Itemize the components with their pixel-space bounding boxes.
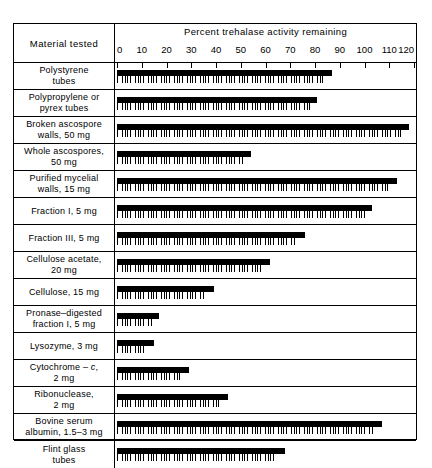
row-plot [115, 387, 416, 413]
x-tick-mark-100 [365, 63, 366, 68]
bar-solid [117, 286, 214, 292]
x-tick-mark-50 [241, 63, 242, 68]
table-row: Flint glasstubes [14, 441, 416, 468]
row-plot [115, 144, 416, 170]
row-plot [115, 117, 416, 143]
x-tick-mark-120 [414, 63, 415, 68]
row-label: Bovine serumalbumin, 1.5–3 mg [14, 414, 115, 440]
x-tick-mark-80 [315, 63, 316, 68]
table-row: Pronase–digestedfraction I, 5 mg [14, 306, 416, 333]
row-label: Cytochrome – c,2 mg [14, 360, 115, 386]
bar-solid [117, 259, 270, 265]
table-row: Fraction III, 5 mg [14, 225, 416, 252]
x-tick-label-10: 10 [136, 44, 147, 55]
bar-solid [117, 367, 189, 373]
row-label: Fraction III, 5 mg [14, 225, 115, 251]
bar-solid [117, 448, 285, 454]
axis-title: Percent trehalase activity remaining [115, 26, 416, 37]
bar-solid [117, 232, 305, 238]
row-plot [115, 63, 416, 89]
x-tick-mark-90 [340, 63, 341, 68]
bar-hatched [117, 346, 147, 353]
row-plot [115, 252, 416, 278]
bar-hatched [117, 454, 275, 461]
chart-table: Material tested Percent trehalase activi… [13, 23, 417, 440]
row-plot [115, 171, 416, 197]
bar-solid [117, 97, 317, 103]
table-row: Polystyrenetubes [14, 63, 416, 90]
row-label: Lysozyme, 3 mg [14, 333, 115, 359]
material-column-header: Material tested [14, 24, 115, 62]
table-row: Bovine serumalbumin, 1.5–3 mg [14, 414, 416, 441]
bar-solid [117, 151, 251, 157]
bar-solid [117, 178, 397, 184]
row-plot [115, 225, 416, 251]
row-plot [115, 360, 416, 386]
x-tick-label-20: 20 [161, 44, 172, 55]
x-tick-mark-60 [266, 63, 267, 68]
row-label: Whole ascospores,50 mg [14, 144, 115, 170]
bar-solid [117, 70, 332, 76]
bar-hatched [117, 184, 389, 191]
x-tick-label-110: 110 [382, 44, 397, 55]
row-plot [115, 279, 416, 305]
table-row: Ribonuclease,2 mg [14, 387, 416, 414]
bar-solid [117, 421, 382, 427]
row-label: Polypropylene orpyrex tubes [14, 90, 115, 116]
x-tick-mark-0 [117, 63, 118, 68]
x-tick-label-90: 90 [334, 44, 345, 55]
bar-hatched [117, 427, 374, 434]
table-row: Cytochrome – c,2 mg [14, 360, 416, 387]
bar-solid [117, 340, 154, 346]
row-label: Purified mycelialwalls, 15 mg [14, 171, 115, 197]
row-plot [115, 90, 416, 116]
bar-hatched [117, 76, 325, 83]
table-row: Lysozyme, 3 mg [14, 333, 416, 360]
table-row: Fraction I, 5 mg [14, 198, 416, 225]
row-label: Cellulose, 15 mg [14, 279, 115, 305]
x-tick-label-40: 40 [211, 44, 222, 55]
bar-hatched [117, 265, 261, 272]
x-tick-mark-30 [191, 63, 192, 68]
x-tick-mark-20 [167, 63, 168, 68]
x-tick-mark-40 [216, 63, 217, 68]
row-plot [115, 441, 416, 468]
table-row: Purified mycelialwalls, 15 mg [14, 171, 416, 198]
row-label: Fraction I, 5 mg [14, 198, 115, 224]
chart-rows: PolystyrenetubesPolypropylene orpyrex tu… [14, 63, 416, 468]
bar-hatched [117, 130, 402, 137]
table-row: Polypropylene orpyrex tubes [14, 90, 416, 117]
table-row: Broken ascosporewalls, 50 mg [14, 117, 416, 144]
x-tick-mark-70 [290, 63, 291, 68]
bar-solid [117, 394, 228, 400]
table-row: Whole ascospores,50 mg [14, 144, 416, 171]
row-label: Flint glasstubes [14, 441, 115, 468]
row-plot [115, 414, 416, 440]
bar-hatched [117, 319, 152, 326]
bar-solid [117, 313, 159, 319]
table-row: Cellulose, 15 mg [14, 279, 416, 306]
x-tick-label-50: 50 [235, 44, 246, 55]
bar-solid [117, 205, 372, 211]
row-label: Cellulose acetate,20 mg [14, 252, 115, 278]
x-axis-header: Percent trehalase activity remaining 010… [115, 24, 416, 62]
x-tick-label-0: 0 [117, 44, 122, 55]
x-tick-label-80: 80 [310, 44, 321, 55]
x-tick-mark-10 [142, 63, 143, 68]
bar-hatched [117, 157, 243, 164]
table-header-row: Material tested Percent trehalase activi… [14, 24, 416, 63]
bar-hatched [117, 238, 295, 245]
x-tick-mark-110 [389, 63, 390, 68]
row-label: Polystyrenetubes [14, 63, 115, 89]
row-plot [115, 333, 416, 359]
row-label: Broken ascosporewalls, 50 mg [14, 117, 115, 143]
bar-hatched [117, 292, 204, 299]
x-tick-label-120: 120 [398, 44, 414, 55]
bar-hatched [117, 211, 365, 218]
x-tick-label-70: 70 [285, 44, 296, 55]
row-label: Pronase–digestedfraction I, 5 mg [14, 306, 115, 332]
x-tick-label-100: 100 [357, 44, 373, 55]
row-label: Ribonuclease,2 mg [14, 387, 115, 413]
table-row: Cellulose acetate,20 mg [14, 252, 416, 279]
row-plot [115, 306, 416, 332]
